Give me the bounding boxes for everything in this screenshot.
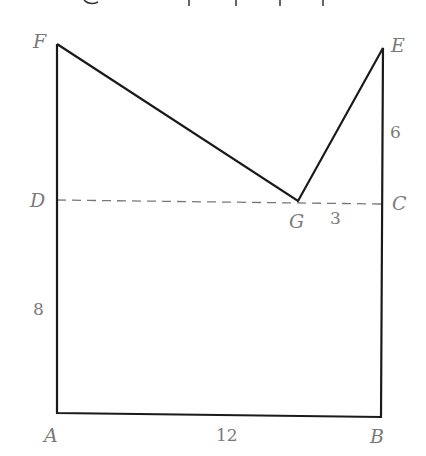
dashed-line-dc: [57, 200, 381, 204]
measure-ab: 12: [216, 425, 238, 445]
label-g: G: [289, 210, 304, 232]
measure-ce: 6: [390, 122, 401, 142]
label-d: D: [29, 189, 45, 211]
label-b: B: [369, 425, 384, 447]
measure-ad: 8: [33, 299, 44, 319]
cropped-top-text: [84, 0, 323, 6]
label-c: C: [392, 192, 407, 214]
label-f: F: [32, 30, 47, 52]
label-e: E: [390, 34, 405, 56]
label-a: A: [42, 424, 58, 446]
measure-gc: 3: [330, 208, 341, 228]
geometry-diagram: F E D C G A B 12 6 3 8: [0, 0, 426, 456]
polygon-abegf: [57, 44, 383, 417]
